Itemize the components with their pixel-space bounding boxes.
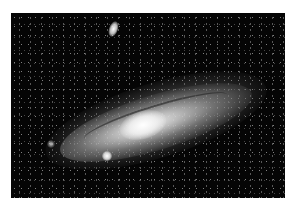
galaxy-photo xyxy=(11,13,285,198)
bright-knot xyxy=(47,140,55,148)
satellite-galaxy-lower xyxy=(102,151,112,161)
